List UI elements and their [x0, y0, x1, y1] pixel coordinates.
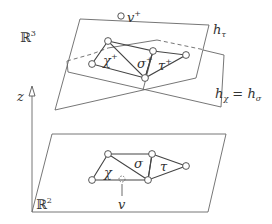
sigma-plus-sup: +: [146, 55, 153, 64]
label-sigma: σ: [134, 157, 143, 170]
label-tau: τ: [160, 160, 167, 173]
vertex-v-plus: [118, 13, 124, 19]
label-h-chi-equals-h-sigma: hχ = hσ: [215, 87, 261, 103]
vertex-lifted-bottom: [142, 75, 149, 82]
r3-exponent: 3: [31, 29, 36, 38]
vertex-lifted-top: [105, 38, 112, 45]
z-axis-arrowhead: [29, 86, 35, 96]
label-z-axis: z: [17, 90, 24, 103]
label-sigma-plus: σ+: [137, 56, 153, 70]
plane-hidden-edge-right: [157, 40, 205, 50]
label-v: v: [118, 198, 125, 211]
h-sigma-sub: σ: [256, 94, 261, 103]
vertex-base-mid: [149, 151, 156, 158]
label-chi-plus: χ+: [103, 53, 118, 67]
r3-symbol: ℝ: [20, 30, 31, 45]
v-plus-sup: +: [134, 9, 141, 18]
vertex-base-left: [89, 177, 96, 184]
sigma-plus-text: σ: [137, 56, 146, 71]
r2-exponent: 2: [47, 196, 52, 205]
lifting-diagram: ℝ3 ℝ2 z v+ hτ hχ = hσ χ+ σ+ τ+ χ σ τ v: [0, 0, 272, 224]
vertex-base-right: [183, 163, 190, 170]
vertex-lifted-left: [89, 61, 96, 68]
label-chi: χ: [104, 166, 112, 179]
label-r2: ℝ2: [36, 197, 52, 211]
equals-sign: =: [228, 86, 247, 101]
chi-plus-sup: +: [111, 52, 118, 61]
label-tau-plus: τ+: [158, 58, 172, 72]
vertex-v-hidden: [119, 176, 125, 182]
h-tau-sub: τ: [221, 30, 225, 39]
label-r3: ℝ3: [20, 30, 36, 44]
chi-plus-text: χ: [103, 53, 111, 68]
vertex-lifted-right: [183, 52, 190, 59]
vertex-lifted-mid: [150, 48, 157, 55]
label-h-tau: hτ: [213, 23, 226, 39]
tau-plus-sup: +: [165, 57, 172, 66]
r2-symbol: ℝ: [36, 197, 47, 212]
vertex-base-top: [105, 151, 112, 158]
vertex-base-bottom: [145, 177, 152, 184]
diagram-graphics: [0, 0, 272, 224]
plane-r2: [32, 134, 226, 212]
label-v-plus: v+: [127, 10, 141, 24]
h-sigma-text: h: [247, 86, 255, 101]
